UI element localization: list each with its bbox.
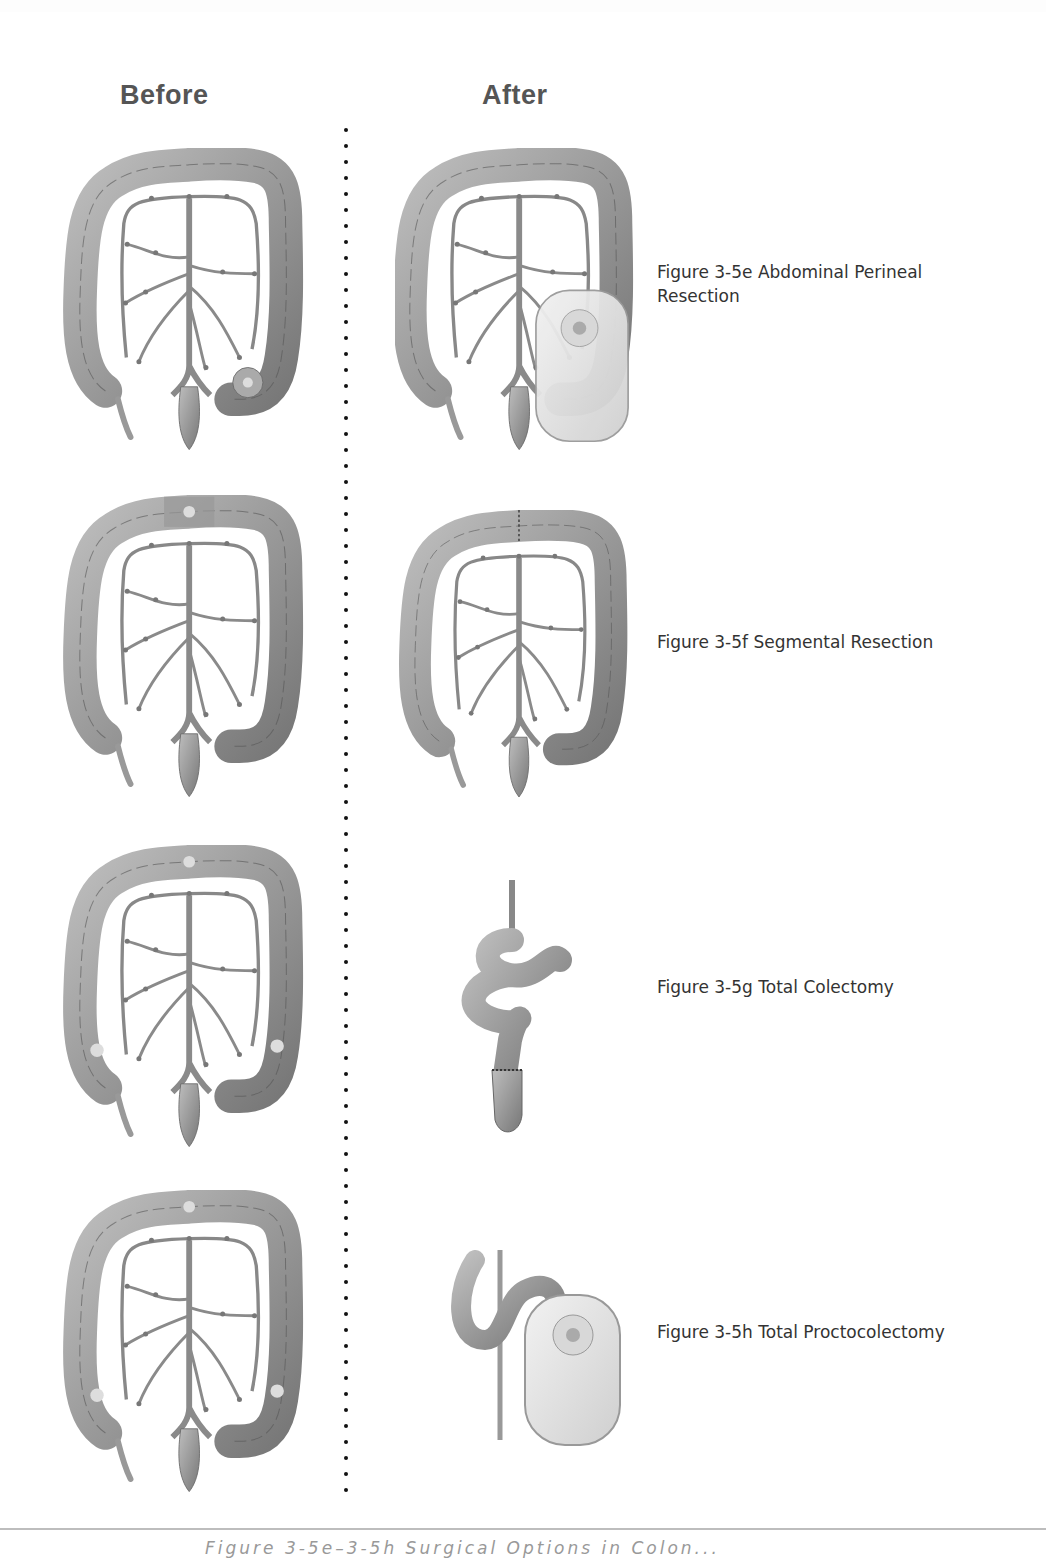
divider-dot xyxy=(344,448,348,452)
caption-line: Figure 3-5e Abdominal Perineal xyxy=(657,260,922,284)
divider-dot xyxy=(344,1360,348,1364)
divider-dot xyxy=(344,768,348,772)
divider-dot xyxy=(344,832,348,836)
divider-dot xyxy=(344,1408,348,1412)
divider-dot xyxy=(344,368,348,372)
figure-caption-3-5f: Figure 3-5f Segmental Resection xyxy=(657,630,933,654)
divider-dot xyxy=(344,944,348,948)
divider-dot xyxy=(344,1104,348,1108)
divider-dot xyxy=(344,848,348,852)
divider-dot xyxy=(344,1200,348,1204)
divider-dot xyxy=(344,160,348,164)
divider-dot xyxy=(344,608,348,612)
caption-line: Figure 3-5g Total Colectomy xyxy=(657,975,894,999)
before-colon-illustration-3-5f xyxy=(55,495,315,805)
divider-dot xyxy=(344,1488,348,1492)
divider-dot xyxy=(344,400,348,404)
divider-dot xyxy=(344,1072,348,1076)
divider-dot xyxy=(344,336,348,340)
divider-dot xyxy=(344,912,348,916)
divider-dot xyxy=(344,480,348,484)
divider-dot xyxy=(344,304,348,308)
divider-dot xyxy=(344,240,348,244)
divider-dot xyxy=(344,512,348,516)
divider-dot xyxy=(344,1312,348,1316)
divider-dot xyxy=(344,1472,348,1476)
divider-dot xyxy=(344,1248,348,1252)
caption-line: Figure 3-5h Total Proctocolectomy xyxy=(657,1320,945,1344)
divider-dot xyxy=(344,960,348,964)
divider-dot xyxy=(344,208,348,212)
divider-dot xyxy=(344,736,348,740)
divider-dot xyxy=(344,592,348,596)
divider-dot xyxy=(344,496,348,500)
caption-line: Figure 3-5f Segmental Resection xyxy=(657,630,933,654)
divider-dot xyxy=(344,1152,348,1156)
divider-dot xyxy=(344,144,348,148)
divider-dot xyxy=(344,288,348,292)
divider-dot xyxy=(344,352,348,356)
divider-dot xyxy=(344,1424,348,1428)
divider-dot xyxy=(344,704,348,708)
divider-dot xyxy=(344,272,348,276)
divider-dot xyxy=(344,624,348,628)
after-column-heading: After xyxy=(482,80,548,111)
figure-caption-3-5e: Figure 3-5e Abdominal Perineal Resection xyxy=(657,260,922,308)
divider-dot xyxy=(344,656,348,660)
divider-dot xyxy=(344,672,348,676)
divider-dot xyxy=(344,224,348,228)
divider-dot xyxy=(344,1040,348,1044)
divider-dot xyxy=(344,688,348,692)
divider-dot xyxy=(344,1232,348,1236)
divider-dot xyxy=(344,544,348,548)
divider-dot xyxy=(344,1184,348,1188)
before-column-heading: Before xyxy=(120,80,209,111)
divider-dot xyxy=(344,1280,348,1284)
divider-dot xyxy=(344,576,348,580)
caption-line: Resection xyxy=(657,284,922,308)
divider-dot xyxy=(344,256,348,260)
figure-caption-3-5g: Figure 3-5g Total Colectomy xyxy=(657,975,894,999)
divider-dot xyxy=(344,784,348,788)
divider-dot xyxy=(344,560,348,564)
divider-dot xyxy=(344,1088,348,1092)
divider-dot xyxy=(344,1376,348,1380)
divider-dot xyxy=(344,1120,348,1124)
divider-dot xyxy=(344,928,348,932)
divider-dot xyxy=(344,720,348,724)
divider-dot xyxy=(344,1008,348,1012)
before-colon-illustration-3-5e xyxy=(55,148,315,458)
after-colon-anastomosis-illustration-3-5f xyxy=(395,510,635,805)
divider-dot xyxy=(344,384,348,388)
divider-dot xyxy=(344,1136,348,1140)
divider-dot xyxy=(344,896,348,900)
divider-dot xyxy=(344,992,348,996)
divider-dot xyxy=(344,1344,348,1348)
divider-dot xyxy=(344,1168,348,1172)
divider-dot xyxy=(344,800,348,804)
divider-dot xyxy=(344,1264,348,1268)
divider-dot xyxy=(344,1440,348,1444)
divider-dot xyxy=(344,1056,348,1060)
divider-dot xyxy=(344,1456,348,1460)
divider-dot xyxy=(344,640,348,644)
dotted-divider xyxy=(344,128,348,1498)
divider-dot xyxy=(344,128,348,132)
footer-rule xyxy=(0,1528,1046,1530)
divider-dot xyxy=(344,816,348,820)
after-small-intestine-illustration-3-5g xyxy=(450,880,580,1140)
divider-dot xyxy=(344,1328,348,1332)
before-colon-illustration-3-5h xyxy=(55,1190,315,1500)
divider-dot xyxy=(344,176,348,180)
divider-dot xyxy=(344,1392,348,1396)
divider-dot xyxy=(344,1024,348,1028)
divider-dot xyxy=(344,864,348,868)
divider-dot xyxy=(344,320,348,324)
figure-caption-3-5h: Figure 3-5h Total Proctocolectomy xyxy=(657,1320,945,1344)
divider-dot xyxy=(344,528,348,532)
divider-dot xyxy=(344,976,348,980)
divider-dot xyxy=(344,464,348,468)
divider-dot xyxy=(344,416,348,420)
footer-caption: Figure 3-5e–3-5h Surgical Options in Col… xyxy=(205,1538,720,1558)
divider-dot xyxy=(344,432,348,436)
